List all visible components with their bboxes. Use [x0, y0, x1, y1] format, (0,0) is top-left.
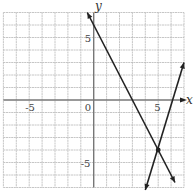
x-tick-label: 5 — [154, 102, 160, 113]
y-tick-label: 5 — [85, 33, 91, 44]
coordinate-plane: -5055-5 x y — [0, 0, 194, 193]
y-axis-label: y — [94, 0, 102, 13]
plot-points — [156, 148, 161, 153]
x-tick-label: -5 — [25, 102, 35, 113]
x-axis-label: x — [186, 93, 193, 107]
y-tick-label: -5 — [81, 158, 91, 169]
axes — [3, 13, 187, 188]
plot-lines — [87, 13, 184, 191]
arrow-head-icon — [145, 184, 150, 190]
arrow-head-icon — [180, 63, 185, 69]
line-1 — [87, 13, 175, 183]
x-tick-label: 0 — [85, 102, 91, 113]
line-2 — [145, 63, 184, 191]
intersection-point — [156, 148, 161, 153]
